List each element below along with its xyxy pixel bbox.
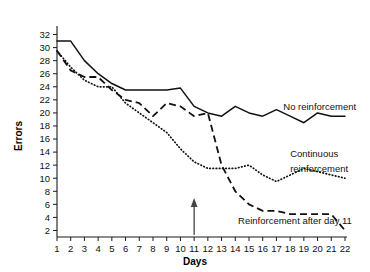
y-axis-tick-label: 22 — [39, 94, 50, 105]
y-axis-tick-label: 28 — [39, 55, 50, 66]
x-axis-tick-label: 6 — [123, 243, 128, 254]
x-axis-tick-label: 7 — [137, 243, 142, 254]
x-axis-tick-label: 13 — [216, 243, 227, 254]
x-axis-tick-label: 5 — [109, 243, 114, 254]
x-axis-tick-label: 9 — [164, 243, 169, 254]
y-axis-tick-label: 6 — [45, 199, 50, 210]
y-axis: 2468101214161820222426283032 — [39, 26, 57, 237]
reinforcement-after-day-11-label: Reinforcement after day 11 — [238, 215, 352, 226]
x-axis-tick-label: 19 — [299, 243, 310, 254]
x-axis-tick-label: 4 — [95, 243, 100, 254]
y-axis-tick-label: 26 — [39, 68, 50, 79]
x-axis-tick-label: 3 — [82, 243, 87, 254]
x-axis-tick-label: 21 — [326, 243, 337, 254]
x-axis-tick-label: 15 — [244, 243, 255, 254]
x-axis-tick-label: 22 — [340, 243, 351, 254]
y-axis-tick-label: 14 — [39, 146, 50, 157]
x-axis-tick-label: 12 — [203, 243, 214, 254]
y-axis-tick-label: 10 — [39, 173, 50, 184]
continuous-reinforcement-label-line2: reinforcement — [290, 163, 348, 174]
y-axis-tick-label: 16 — [39, 133, 50, 144]
no-reinforcement-label: No reinforcement — [283, 101, 356, 112]
x-axis-tick-label: 10 — [175, 243, 186, 254]
series-lines — [57, 41, 345, 230]
y-axis-tick-label: 30 — [39, 42, 50, 53]
continuous-reinforcement-label-line1: Continuous — [290, 148, 338, 159]
x-axis-title: Days — [183, 256, 207, 267]
x-axis-tick-label: 18 — [285, 243, 296, 254]
y-axis-tick-label: 2 — [45, 225, 50, 236]
y-axis-tick-label: 12 — [39, 160, 50, 171]
x-axis-tick-label: 1 — [54, 243, 59, 254]
y-axis-tick-label: 8 — [45, 186, 50, 197]
y-axis-tick-label: 4 — [45, 212, 50, 223]
y-axis-tick-label: 20 — [39, 107, 50, 118]
x-axis-tick-label: 8 — [150, 243, 155, 254]
x-axis-tick-label: 2 — [68, 243, 73, 254]
x-axis: 12345678910111213141516171819202122 — [54, 237, 350, 254]
y-axis-tick-label: 32 — [39, 29, 50, 40]
series-line-reinforcement-after-day-11 — [57, 51, 345, 231]
x-axis-tick-label: 11 — [189, 243, 199, 254]
x-axis-tick-label: 17 — [271, 243, 282, 254]
line-chart-plot: 2468101214161820222426283032 12345678910… — [0, 0, 370, 272]
chart-container: 2468101214161820222426283032 12345678910… — [0, 0, 370, 272]
y-axis-tick-label: 18 — [39, 120, 50, 131]
y-axis-title: Errors — [13, 121, 24, 151]
day-11-arrow-head — [191, 198, 198, 207]
x-axis-tick-label: 16 — [257, 243, 268, 254]
x-axis-tick-label: 20 — [312, 243, 323, 254]
y-axis-tick-label: 24 — [39, 81, 50, 92]
x-axis-tick-label: 14 — [230, 243, 241, 254]
